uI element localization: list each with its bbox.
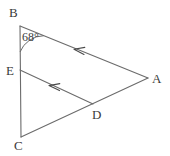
segment-BC xyxy=(20,26,21,137)
angle-label-B: 68° xyxy=(22,31,39,43)
vertex-label-B: B xyxy=(9,6,18,19)
segment-ED xyxy=(20,70,93,104)
segment-BA xyxy=(20,26,148,78)
vertex-label-C: C xyxy=(14,139,23,152)
vertex-label-A: A xyxy=(152,72,161,85)
geometry-figure: B E C D A 68° xyxy=(0,0,170,156)
vertex-label-E: E xyxy=(6,64,14,77)
arrow-mark-BA xyxy=(74,47,85,54)
geometry-canvas xyxy=(0,0,170,156)
segment-CA xyxy=(21,78,148,137)
vertex-label-D: D xyxy=(92,108,101,121)
